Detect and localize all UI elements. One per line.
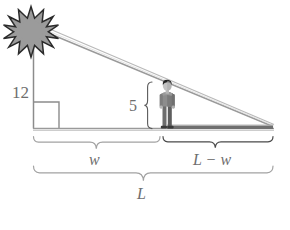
label-total-length: L <box>136 185 146 202</box>
label-shadow-far: L − w <box>192 151 231 168</box>
brace-l-total <box>34 166 274 181</box>
brace-l-minus-w <box>163 137 273 148</box>
brace-w <box>34 137 161 149</box>
geometry-diagram: 12 5 w L − w L <box>0 0 290 230</box>
person-height-brace <box>144 82 152 129</box>
light-ray-hypotenuse <box>36 24 274 127</box>
label-shadow-near: w <box>89 151 100 168</box>
right-angle-marker <box>34 102 60 128</box>
label-pole-height: 12 <box>12 83 29 102</box>
standing-person-icon <box>160 80 175 129</box>
diagram-canvas: 12 5 w L − w L <box>0 0 290 230</box>
label-person-height: 5 <box>129 97 137 114</box>
shadow-band <box>167 125 273 129</box>
